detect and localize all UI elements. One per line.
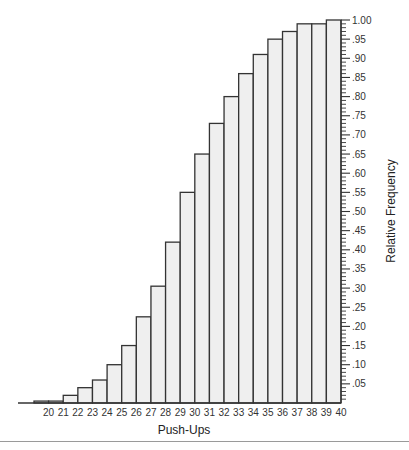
y-tick-label: .80: [352, 91, 366, 102]
bar-39-40: [326, 20, 341, 403]
x-tick-label: 33: [233, 407, 245, 418]
y-tick-label: .50: [352, 206, 366, 217]
bar-29-30: [180, 192, 195, 403]
bar-28-29: [166, 242, 181, 403]
x-tick-label: 24: [102, 407, 114, 418]
y-tick-label: .60: [352, 168, 366, 179]
y-tick-label: 1.00: [352, 15, 372, 26]
y-tick-label: .10: [352, 359, 366, 370]
x-axis-title: Push-Ups: [158, 423, 211, 437]
y-tick-label: .90: [352, 53, 366, 64]
x-tick-label: 32: [218, 407, 230, 418]
bar-33-34: [239, 74, 254, 403]
bar-25-26: [122, 346, 137, 403]
bar-24-25: [107, 365, 122, 403]
y-tick-label: .95: [352, 34, 366, 45]
x-tick-label: 38: [306, 407, 318, 418]
x-tick-label: 37: [292, 407, 304, 418]
y-tick-label: .15: [352, 340, 366, 351]
bar-22-23: [78, 388, 93, 403]
bar-21-22: [63, 395, 78, 403]
y-tick-label: .85: [352, 72, 366, 83]
x-tick-label: 28: [160, 407, 172, 418]
y-tick-label: .75: [352, 110, 366, 121]
x-tick-label: 29: [175, 407, 187, 418]
chart: .05.10.15.20.25.30.35.40.45.50.55.60.65.…: [0, 0, 409, 450]
x-tick-label: 25: [116, 407, 128, 418]
x-tick-label: 34: [248, 407, 260, 418]
y-tick-label: .55: [352, 187, 366, 198]
x-tick-label: 27: [145, 407, 157, 418]
x-tick-label: 39: [321, 407, 333, 418]
bar-36-37: [283, 31, 298, 403]
bar-27-28: [151, 286, 166, 403]
x-tick-label: 21: [58, 407, 70, 418]
y-tick-label: .05: [352, 378, 366, 389]
bar-37-38: [297, 24, 312, 403]
y-tick-label: .65: [352, 149, 366, 160]
bar-26-27: [136, 317, 151, 403]
x-ticks-group: 2021222324252627282930313233343536373839…: [43, 407, 347, 418]
bar-23-24: [92, 380, 107, 403]
x-tick-label: 23: [87, 407, 99, 418]
y-tick-label: .70: [352, 129, 366, 140]
x-tick-label: 35: [262, 407, 274, 418]
y-axis-title: Relative Frequency: [384, 159, 398, 262]
bar-31-32: [209, 123, 224, 403]
bars-group: [34, 20, 341, 403]
x-tick-label: 30: [189, 407, 201, 418]
x-tick-label: 36: [277, 407, 289, 418]
y-tick-label: .35: [352, 263, 366, 274]
bar-35-36: [268, 39, 283, 403]
page-divider: [0, 441, 409, 442]
y-tick-label: .45: [352, 225, 366, 236]
x-tick-label: 31: [204, 407, 216, 418]
bar-32-33: [224, 97, 239, 403]
bar-38-39: [312, 24, 327, 403]
bar-30-31: [195, 154, 210, 403]
x-tick-label: 26: [131, 407, 143, 418]
y-tick-label: .30: [352, 283, 366, 294]
bar-34-35: [253, 54, 268, 403]
y-tick-label: .20: [352, 321, 366, 332]
y-tick-label: .40: [352, 244, 366, 255]
x-tick-label: 22: [72, 407, 84, 418]
x-tick-label: 40: [335, 407, 347, 418]
y-tick-label: .25: [352, 302, 366, 313]
y-ticks-group: .05.10.15.20.25.30.35.40.45.50.55.60.65.…: [341, 15, 372, 400]
x-tick-label: 20: [43, 407, 55, 418]
